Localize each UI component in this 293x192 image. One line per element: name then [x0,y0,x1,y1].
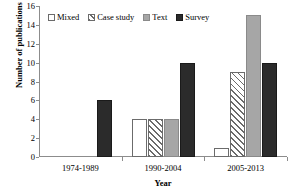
x-axis-title: Year [39,178,287,188]
bar [180,63,195,157]
legend-label: Text [152,13,167,22]
bar [214,148,229,157]
y-axis-title: Number of publications [14,0,24,110]
bar [132,119,147,157]
x-axis-tick-mark [287,157,288,161]
bar-groups [39,6,287,157]
legend-item: Mixed [48,13,79,22]
x-axis-tick-mark [204,157,205,161]
bar-chart: Number of publications 0246810121416 197… [0,0,293,192]
y-axis-tick-label: 12 [27,40,36,49]
x-axis-tick-labels: 1974-19891990-20042005-2013 [39,163,287,173]
x-axis-tick-mark [122,157,123,161]
legend-swatch-icon [143,14,150,21]
bar [148,119,163,157]
legend-item: Case study [88,13,134,22]
bar-group [39,6,122,157]
legend-swatch-icon [88,14,95,21]
y-axis-tick-label: 6 [31,96,35,105]
bar [246,15,261,157]
y-axis-tick-label: 2 [31,134,35,143]
y-axis-tick-label: 14 [27,21,36,30]
bar-group [122,6,205,157]
x-axis-tick-label: 2005-2013 [204,163,287,173]
bar [164,119,179,157]
y-axis-tick-label: 4 [31,115,35,124]
bar-group [204,6,287,157]
x-axis-tick-label: 1974-1989 [39,163,122,173]
bar [262,63,277,157]
y-axis-tick-label: 0 [31,153,35,162]
y-axis-tick-mark [36,157,39,158]
chart-legend: MixedCase studyTextSurvey [48,13,209,22]
plot-area: 0246810121416 [39,6,287,157]
y-axis-tick-label: 8 [31,77,35,86]
legend-label: Case study [97,13,134,22]
legend-label: Mixed [57,13,79,22]
legend-swatch-icon [176,14,183,21]
bar [230,72,245,157]
legend-item: Survey [176,13,209,22]
bar [97,100,112,157]
y-axis-tick-label: 16 [27,2,36,11]
x-axis-tick-label: 1990-2004 [122,163,205,173]
legend-label: Survey [185,13,209,22]
legend-swatch-icon [48,14,55,21]
legend-item: Text [143,13,167,22]
y-axis-tick-label: 10 [27,58,36,67]
